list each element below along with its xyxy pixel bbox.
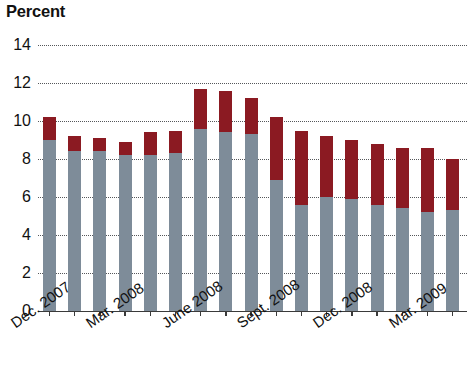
bar-segment-top (68, 136, 81, 151)
x-axis-tick-mark (74, 311, 76, 316)
bar (194, 89, 207, 311)
bar-segment-top (320, 136, 333, 197)
bar (270, 117, 283, 311)
bar (219, 91, 232, 311)
bar-segment-bottom (169, 153, 182, 311)
y-axis-tick-label: 8 (22, 151, 31, 167)
x-axis-tick-mark (225, 311, 227, 316)
x-axis-tick-mark (376, 311, 378, 316)
bar (144, 132, 157, 311)
bar-segment-top (371, 144, 384, 205)
y-axis-tick-label: 12 (13, 75, 31, 91)
bar (245, 98, 258, 311)
x-axis-tick-mark (124, 311, 126, 316)
bar (169, 131, 182, 311)
x-axis-tick-mark (427, 311, 429, 316)
bar-segment-top (270, 117, 283, 180)
bar-segment-bottom (396, 208, 409, 311)
bar-segment-top (194, 89, 207, 129)
bar-segment-top (245, 98, 258, 134)
bar (43, 117, 56, 311)
x-axis-tick-mark (276, 311, 278, 316)
bar-segment-bottom (93, 151, 106, 311)
chart-container: Percent 14121086420 Dec. 2007Mar. 2008Ju… (0, 0, 467, 386)
bar-segment-top (119, 142, 132, 155)
bar-segment-top (446, 159, 459, 210)
bar-segment-top (219, 91, 232, 133)
x-axis-tick-mark (200, 311, 202, 316)
bar-segment-bottom (295, 205, 308, 311)
y-axis-tick-label: 4 (22, 227, 31, 243)
x-axis-tick-mark (452, 311, 454, 316)
bar (396, 148, 409, 311)
x-axis-tick-mark (351, 311, 353, 316)
bar-segment-top (345, 140, 358, 199)
y-axis-tick-label: 2 (22, 265, 31, 281)
y-axis-tick-label: 14 (13, 37, 31, 53)
bar (446, 159, 459, 311)
bars-group (38, 45, 467, 311)
bar (93, 138, 106, 311)
x-axis-tick-mark (49, 311, 51, 316)
chart-title: Percent (6, 2, 65, 21)
bar-segment-top (93, 138, 106, 151)
bar-segment-top (169, 131, 182, 154)
bar-segment-top (43, 117, 56, 140)
bar-segment-bottom (320, 197, 333, 311)
bar (371, 144, 384, 311)
plot-area: 14121086420 Dec. 2007Mar. 2008June 2008S… (38, 45, 467, 311)
bar (320, 136, 333, 311)
bar-segment-top (421, 148, 434, 213)
x-axis-tick-mark (150, 311, 152, 316)
bar-segment-bottom (144, 155, 157, 311)
bar (68, 136, 81, 311)
bar-segment-top (396, 148, 409, 209)
x-axis-tick-mark (301, 311, 303, 316)
bar-segment-bottom (245, 134, 258, 311)
bar-segment-top (144, 132, 157, 155)
y-axis-tick-label: 6 (22, 189, 31, 205)
bar-segment-bottom (446, 210, 459, 311)
y-axis-tick-label: 10 (13, 113, 31, 129)
bar-segment-bottom (371, 205, 384, 311)
bar-segment-top (295, 131, 308, 205)
